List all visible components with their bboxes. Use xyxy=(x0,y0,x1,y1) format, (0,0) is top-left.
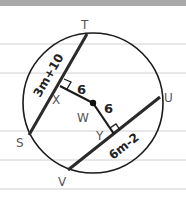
point-label-v: V xyxy=(58,175,67,189)
label-wy-length: 6 xyxy=(104,101,113,116)
point-label-w: W xyxy=(77,111,89,125)
top-band xyxy=(0,0,186,6)
center-point-w xyxy=(90,100,96,106)
ruled-lines xyxy=(0,44,186,189)
point-label-s: S xyxy=(16,136,24,150)
diagram-canvas: 3m+10 6m-2 6 6 T S U V W X Y xyxy=(0,0,186,206)
point-label-y: Y xyxy=(95,129,104,143)
circle-diagram: 3m+10 6m-2 6 6 T S U V W X Y xyxy=(0,0,186,206)
label-chord-st: 3m+10 xyxy=(30,51,66,99)
point-label-u: U xyxy=(164,91,173,105)
point-label-t: T xyxy=(80,18,89,32)
label-wx-length: 6 xyxy=(77,82,86,97)
point-label-x: X xyxy=(52,93,60,107)
